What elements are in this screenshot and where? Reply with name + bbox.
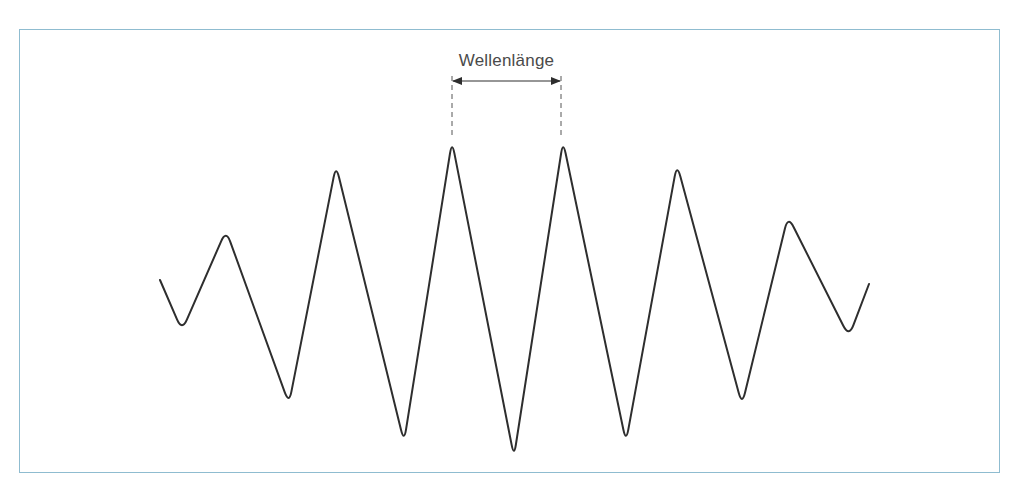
wave-line [160, 147, 869, 451]
wavelength-label: Wellenlänge [459, 51, 554, 70]
wave-diagram: Wellenlänge [0, 0, 1018, 492]
